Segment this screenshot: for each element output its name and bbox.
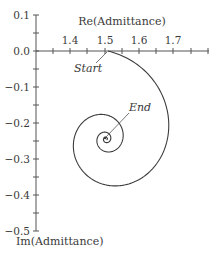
y-tick-label: −0.3 [5,153,31,165]
start-annotation: Start [74,62,103,75]
x-axis-title: Re(Admittance) [78,15,165,28]
admittance-spiral-chart: 0.1 0.0 −0.1 −0.2 −0.3 −0.4 −0.5 1.4 1.5… [0,0,220,258]
y-tick-label: 0.0 [13,45,30,57]
y-tick-label: −0.1 [5,81,31,93]
x-tick-label: 1.4 [62,34,79,46]
x-tick-label: 1.6 [131,34,148,46]
end-leader-line [106,113,129,137]
x-tick-label: 1.7 [165,34,182,46]
y-tick-label: −0.4 [5,189,31,201]
y-tick-label: −0.2 [5,117,31,129]
spiral-end-point [104,137,107,140]
y-axis-title: Im(Admittance) [16,235,103,248]
x-tick-label: 1.5 [97,34,114,46]
y-tick-label: 0.1 [13,9,30,21]
end-annotation: End [128,101,151,114]
